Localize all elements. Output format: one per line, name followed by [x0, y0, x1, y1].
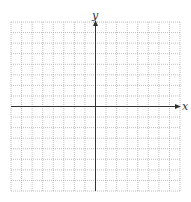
- coordinate-plane: x y: [0, 0, 191, 202]
- x-axis-label: x: [182, 100, 189, 113]
- y-axis-label: y: [91, 9, 99, 22]
